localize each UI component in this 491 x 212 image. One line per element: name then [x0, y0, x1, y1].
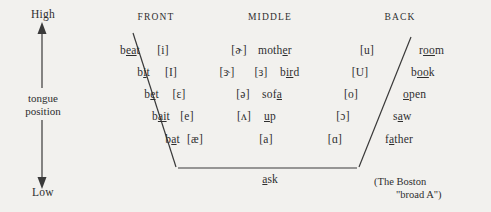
text-segment: k: [429, 66, 435, 78]
front-symbol-i: [i]: [140, 44, 186, 56]
text-segment: sof: [262, 88, 277, 100]
back-symbol-script-a: [ɑ]: [318, 133, 352, 145]
text-segment: r: [288, 44, 292, 56]
front-symbol-e: [e]: [164, 110, 210, 122]
text-segment: sk: [267, 173, 277, 185]
middle-symbol-rhotic-schwa: [ɚ]: [224, 44, 254, 56]
front-word-bait: bait: [60, 110, 170, 122]
middle-word-sofa: sofa: [262, 88, 322, 100]
middle-symbol-a: [a]: [250, 133, 282, 145]
text-segment: moth: [258, 44, 282, 56]
back-symbol-open-o: [ɔ]: [326, 110, 360, 122]
text-segment: d: [293, 66, 299, 78]
underlined-segment: ea: [126, 44, 137, 56]
front-word-bet: bet: [60, 88, 159, 100]
front-word-bit: bit: [60, 66, 150, 78]
front-symbol-epsilon: [ɛ]: [156, 88, 202, 100]
front-symbol-small-cap-i: [I]: [148, 66, 194, 78]
middle-symbol-rhotic-reversed-epsilon: [ɝ]: [212, 66, 242, 78]
text-segment: p: [270, 110, 276, 122]
underlined-segment: oo: [423, 44, 435, 56]
trapezoid-right-edge: [359, 37, 411, 167]
annotation-line-1: (The Boston: [374, 176, 491, 189]
text-segment: ther: [394, 133, 413, 145]
annotation-line-2: "broad A"): [374, 189, 491, 202]
underlined-segment: oo: [417, 66, 429, 78]
vowel-chart-diagram: High tongue position Low FRONT MIDDLE BA…: [0, 0, 491, 212]
back-word-room: room: [419, 44, 491, 56]
back-word-father: father: [385, 133, 485, 145]
middle-word-bird: bird: [280, 66, 340, 78]
back-symbol-o: [o]: [334, 88, 368, 100]
back-word-book: book: [411, 66, 491, 78]
middle-symbol-schwa: [ə]: [228, 88, 258, 100]
back-word-open: open: [403, 88, 489, 100]
bottom-word-ask: ask: [232, 173, 308, 185]
boston-broad-a-annotation: (The Boston "broad A"): [374, 176, 491, 201]
middle-symbol-turned-v: [ʌ]: [228, 110, 260, 122]
middle-word-mother: mother: [258, 44, 328, 56]
front-symbol-ash: [æ]: [172, 133, 218, 145]
front-word-bat: bat: [60, 133, 180, 145]
text-segment: m: [435, 44, 444, 56]
back-symbol-u: [u]: [350, 44, 384, 56]
back-word-saw: saw: [393, 110, 483, 122]
middle-symbol-reversed-epsilon: [ɜ]: [246, 66, 276, 78]
text-segment: pen: [409, 88, 426, 100]
front-word-beat: beat: [60, 44, 140, 56]
text-segment: w: [403, 110, 412, 122]
back-symbol-small-cap-u: [U]: [342, 66, 378, 78]
middle-word-up: up: [264, 110, 324, 122]
underlined-segment: a: [277, 88, 282, 100]
